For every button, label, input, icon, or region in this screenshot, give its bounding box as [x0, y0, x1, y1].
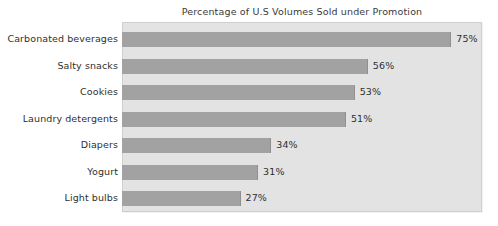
bar-value-label: 34%	[276, 139, 297, 150]
bar-row: Cookies53%	[0, 85, 498, 100]
bar-row: Laundry detergents51%	[0, 112, 498, 127]
category-label: Carbonated beverages	[0, 33, 118, 44]
bars-layer: Carbonated beverages75%Salty snacks56%Co…	[0, 0, 498, 226]
bar-row: Carbonated beverages75%	[0, 32, 498, 47]
category-label: Diapers	[0, 139, 118, 150]
bar-value-label: 53%	[360, 86, 381, 97]
category-label: Salty snacks	[0, 60, 118, 71]
bar-row: Light bulbs27%	[0, 191, 498, 206]
category-label: Yogurt	[0, 166, 118, 177]
category-label: Cookies	[0, 86, 118, 97]
bar	[122, 191, 241, 206]
bar	[122, 59, 368, 74]
bar-row: Diapers34%	[0, 138, 498, 153]
bar-chart-figure: Percentage of U.S Volumes Sold under Pro…	[0, 0, 498, 226]
bar-value-label: 75%	[456, 33, 477, 44]
bar-value-label: 27%	[246, 192, 267, 203]
category-label: Light bulbs	[0, 192, 118, 203]
category-label: Laundry detergents	[0, 113, 118, 124]
bar-value-label: 56%	[373, 60, 394, 71]
bar	[122, 138, 271, 153]
bar	[122, 85, 355, 100]
bar	[122, 165, 258, 180]
bar	[122, 32, 451, 47]
bar-value-label: 31%	[263, 166, 284, 177]
bar-row: Yogurt31%	[0, 165, 498, 180]
bar	[122, 112, 346, 127]
bar-row: Salty snacks56%	[0, 59, 498, 74]
bar-value-label: 51%	[351, 113, 372, 124]
